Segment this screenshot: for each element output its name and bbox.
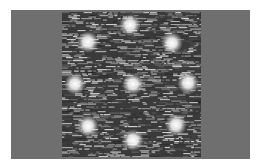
bright-spot [119,14,141,36]
bright-spot [122,73,144,95]
bright-spot [64,73,86,95]
bright-spot [177,72,199,94]
bright-spot [161,32,183,54]
bright-spot [77,31,99,53]
micrograph-scan [62,12,201,157]
bright-spot [165,114,187,136]
bright-spot [77,115,99,137]
bright-spot [122,129,144,151]
